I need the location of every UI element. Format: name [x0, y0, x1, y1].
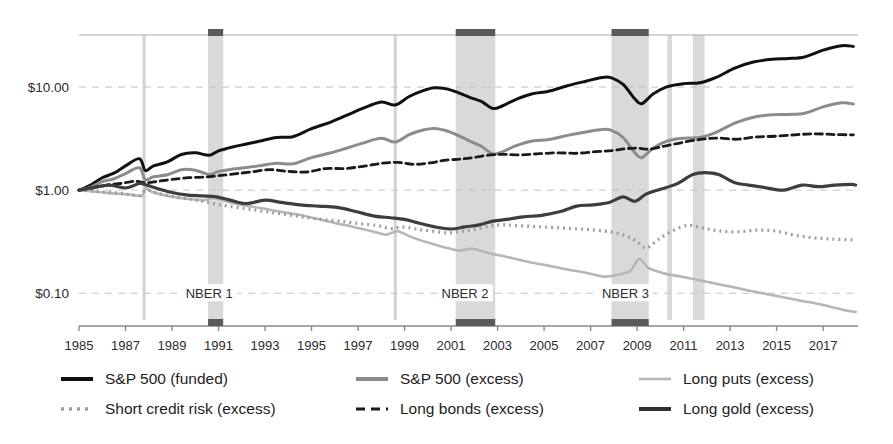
event-lines-group [144, 35, 395, 320]
y-axis-tick-label: $1.00 [35, 183, 69, 198]
x-axis-tick-label: 2009 [623, 338, 652, 353]
y-axis-labels: $10.00$1.00$0.10 [28, 80, 69, 301]
legend-swatch-short-credit-risk-excess [60, 402, 94, 416]
chart-legend: S&P 500 (funded)S&P 500 (excess)Long put… [0, 360, 893, 444]
x-axis-tick-label: 1989 [158, 338, 187, 353]
y-axis-tick-label: $0.10 [35, 286, 69, 301]
x-axis-tick-label: 1987 [111, 338, 140, 353]
recession-band-cap-top [208, 29, 223, 36]
x-axis-tick-label: 2015 [762, 338, 791, 353]
legend-label-long-puts-excess: Long puts (excess) [683, 371, 814, 387]
legend-item-long-bonds-excess[interactable]: Long bonds (excess) [355, 398, 544, 420]
recession-band-cap-top [456, 29, 496, 36]
x-axis-tick-label: 2007 [576, 338, 605, 353]
x-axis-tick-label: 2011 [670, 338, 698, 353]
legend-label-long-bonds-excess: Long bonds (excess) [400, 401, 544, 417]
x-axis-tick-label: 2013 [716, 338, 745, 353]
nber-annotation-label: NBER 3 [602, 286, 649, 301]
x-axis-tick-label: 2001 [437, 338, 466, 353]
recession-bands-group [208, 35, 704, 320]
x-axis-tick-label: 2017 [809, 338, 838, 353]
legend-item-sp500-excess[interactable]: S&P 500 (excess) [355, 368, 524, 390]
legend-item-long-puts-excess[interactable]: Long puts (excess) [638, 368, 814, 390]
recession-caps-group [208, 29, 649, 326]
x-axis-tick-label: 1999 [390, 338, 419, 353]
x-axis-tick-label: 1985 [65, 338, 94, 353]
recession-band [456, 35, 496, 320]
legend-label-short-credit-risk-excess: Short credit risk (excess) [105, 401, 276, 417]
legend-label-sp500-excess: S&P 500 (excess) [400, 371, 524, 387]
x-axis-tick-label: 1995 [297, 338, 326, 353]
legend-swatch-long-bonds-excess [355, 402, 389, 416]
line-chart: $10.00$1.00$0.10 19851987198919911993199… [0, 0, 893, 360]
recession-band-cap-bottom [612, 319, 649, 326]
recession-band [612, 35, 649, 320]
x-axis-tick-label: 2005 [530, 338, 559, 353]
legend-swatch-sp500-excess [355, 372, 389, 386]
y-axis-tick-label: $10.00 [28, 80, 69, 95]
legend-item-long-gold-excess[interactable]: Long gold (excess) [638, 398, 814, 420]
recession-band-cap-top [612, 29, 649, 36]
legend-label-long-gold-excess: Long gold (excess) [683, 401, 814, 417]
legend-label-sp500-funded: S&P 500 (funded) [105, 371, 228, 387]
recession-band [693, 35, 705, 320]
nber-annotation-label: NBER 2 [442, 286, 489, 301]
recession-band [667, 35, 672, 320]
legend-item-short-credit-risk-excess[interactable]: Short credit risk (excess) [60, 398, 276, 420]
legend-swatch-long-gold-excess [638, 402, 672, 416]
legend-swatch-long-puts-excess [638, 372, 672, 386]
recession-band-cap-bottom [456, 319, 496, 326]
x-axis-tick-label: 1997 [344, 338, 373, 353]
x-axis-labels: 1985198719891991199319951997199920012003… [65, 338, 838, 353]
chart-figure: $10.00$1.00$0.10 19851987198919911993199… [0, 0, 893, 444]
x-axis-tick-label: 1991 [204, 338, 233, 353]
legend-item-sp500-funded[interactable]: S&P 500 (funded) [60, 368, 228, 390]
x-axis-tick-label: 1993 [251, 338, 280, 353]
recession-band-cap-bottom [208, 319, 223, 326]
x-axis-tick-label: 2003 [483, 338, 512, 353]
nber-annotation-label: NBER 1 [186, 286, 233, 301]
legend-swatch-sp500-funded [60, 372, 94, 386]
